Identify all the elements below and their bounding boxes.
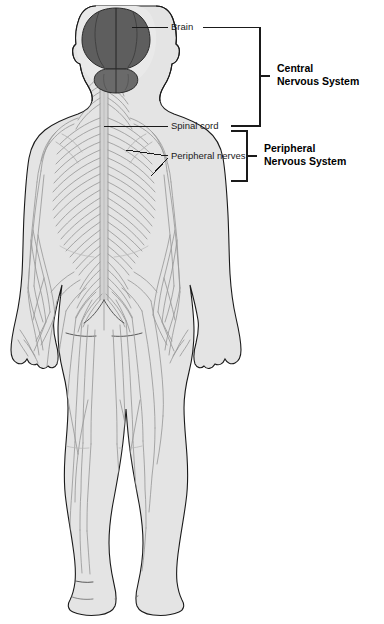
spinal-cord-structure — [100, 78, 108, 300]
label-central-nervous-system-line2: Nervous System — [277, 75, 359, 87]
label-peripheral-nervous-system-line2: Nervous System — [264, 155, 346, 167]
anatomy-illustration: Brain Spinal cord Peripheral nerves Cent… — [0, 0, 384, 624]
label-spinal-cord: Spinal cord — [171, 120, 219, 131]
label-peripheral-nerves: Peripheral nerves — [171, 150, 246, 161]
label-peripheral-nervous-system-line1: Peripheral — [264, 142, 315, 154]
body-outline — [11, 6, 241, 615]
label-central-nervous-system-line1: Central — [277, 62, 313, 74]
nervous-system-figure: Brain Spinal cord Peripheral nerves Cent… — [0, 0, 384, 624]
central-nervous-system-bracket — [231, 27, 270, 126]
label-brain: Brain — [171, 21, 193, 32]
body-silhouette — [11, 6, 241, 615]
